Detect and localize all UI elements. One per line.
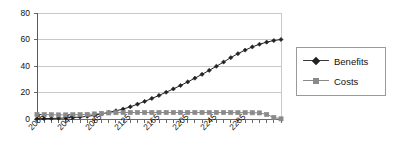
y-axis-tick-label: 0 — [8, 114, 30, 124]
y-axis-tick-label: 80 — [8, 8, 30, 18]
y-axis-tick-label: 60 — [8, 34, 30, 44]
legend-label-benefits: Benefits — [334, 56, 368, 67]
legend-marker-diamond-icon — [303, 56, 329, 66]
chart-container: 020406080 200520452085212521652205224522… — [0, 0, 393, 159]
y-axis-tick-label: 20 — [8, 87, 30, 97]
y-axis-tick-label: 40 — [8, 61, 30, 71]
legend-item-costs: Costs — [303, 73, 358, 89]
legend-marker-square-icon — [303, 76, 329, 86]
chart-legend: Benefits Costs — [296, 47, 386, 96]
legend-item-benefits: Benefits — [303, 53, 368, 69]
legend-label-costs: Costs — [334, 76, 358, 87]
